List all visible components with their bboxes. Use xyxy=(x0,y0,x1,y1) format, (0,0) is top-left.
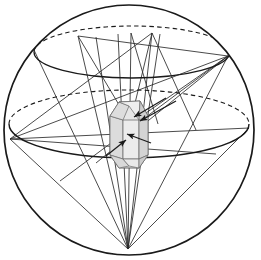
crystal-face-center xyxy=(123,120,139,159)
diagram-canvas xyxy=(0,0,261,260)
crystallography-sphere-diagram xyxy=(0,0,261,260)
crystal-face-left xyxy=(110,116,123,159)
crystal-face-right xyxy=(139,116,148,159)
